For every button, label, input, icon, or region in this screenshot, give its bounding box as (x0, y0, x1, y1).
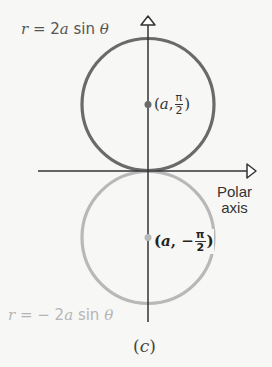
equation-a: a (64, 306, 73, 324)
point-separator: , − (171, 234, 194, 249)
figure-caption: (c) (133, 338, 156, 355)
lower-point-label: (a, − π2 ) (154, 229, 214, 254)
caption-letter: c (140, 336, 150, 356)
lower-equation-label: r = − 2a sin θ (8, 308, 113, 323)
paren-close: ) (207, 234, 214, 249)
polar-axis-label-line1: Polar (217, 184, 252, 200)
polar-axis-label: Polar axis (217, 184, 252, 216)
equation-sin: sin (69, 20, 100, 38)
fraction-denominator: 2 (196, 242, 204, 254)
lower-center-point (145, 234, 152, 241)
pi-over-2-fraction: π2 (175, 92, 184, 117)
point-separator: , (169, 97, 174, 112)
equation-theta: θ (100, 20, 109, 38)
pi-over-2-fraction: π2 (195, 229, 206, 254)
paren-open: ( (154, 234, 161, 249)
upper-equation-label: r = 2a sin θ (21, 22, 109, 37)
vertical-axis-arrow-icon (141, 16, 155, 25)
point-a: a (160, 97, 169, 112)
equation-equals: = − 2 (15, 306, 64, 324)
upper-center-point (145, 101, 152, 108)
paren-close: ) (184, 97, 190, 112)
polar-circles-figure: r = 2a sin θ (a, π2 ) (a, − π2 ) Polar a… (0, 0, 272, 367)
point-a: a (161, 234, 171, 249)
polar-axis-arrow-icon (247, 164, 256, 178)
fraction-denominator: 2 (175, 105, 182, 117)
upper-point-label: (a, π2 ) (154, 92, 190, 117)
equation-sin: sin (73, 306, 104, 324)
equation-theta: θ (104, 306, 113, 324)
equation-a: a (60, 20, 69, 38)
polar-axis-label-line2: axis (217, 200, 252, 216)
equation-equals: = 2 (28, 20, 60, 38)
